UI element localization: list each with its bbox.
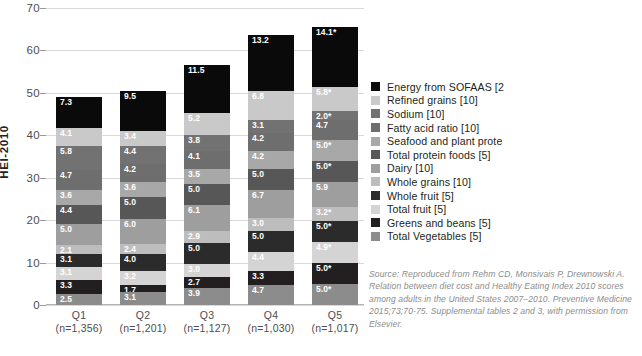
y-tick-mark xyxy=(40,50,46,51)
bar-column[interactable]: 13.26.83.14.24.25.06.73.05.04.43.34.7 xyxy=(248,35,294,305)
legend-swatch xyxy=(371,205,380,214)
plot-area: 010203040506070 7.34.15.84.73.64.45.02.1… xyxy=(46,8,364,305)
legend-item[interactable]: Whole fruit [5] xyxy=(371,189,639,203)
bar-segment: 2.1 xyxy=(56,245,102,254)
bar-segment-value: 9.5 xyxy=(124,92,136,101)
bar-segment-value: 3.9 xyxy=(188,289,200,298)
bar-segment: 4.4 xyxy=(248,252,294,271)
bar-segment: 4.2 xyxy=(248,133,294,151)
bar-segment: 3.3 xyxy=(248,271,294,285)
bar-segment-value: 4.7 xyxy=(252,286,264,295)
bar-segment: 5.0 xyxy=(184,184,230,205)
bar-segment-value: 14.1* xyxy=(316,28,336,37)
bar-segment-value: 4.2 xyxy=(252,152,264,161)
legend: Energy from SOFAAS [2Refined grains [10]… xyxy=(371,80,639,243)
bar-column[interactable]: 11.55.23.84.13.55.06.12.95.03.02.73.9 xyxy=(184,65,230,305)
bar-segment-value: 2.5 xyxy=(60,295,72,304)
bar-segment: 4.1 xyxy=(184,151,230,168)
legend-item[interactable]: Total fruit [5] xyxy=(371,202,639,216)
bar-segment: 3.3 xyxy=(56,280,102,294)
bar-segment: 4.4 xyxy=(56,205,102,224)
bar-column[interactable]: 9.53.44.44.23.65.06.02.44.03.21.73.1 xyxy=(120,91,166,305)
legend-item[interactable]: Fatty acid ratio [10] xyxy=(371,121,639,135)
bar-segment: 3.1 xyxy=(56,267,102,280)
legend-item[interactable]: Total Vegetables [5] xyxy=(371,230,639,244)
bar-segment-value: 3.1 xyxy=(124,293,136,302)
bar-segment-value: 4.0 xyxy=(124,255,136,264)
bar-segment: 4.7 xyxy=(248,285,294,305)
legend-label: Whole grains [10] xyxy=(387,176,471,188)
bar-segment-value: 5.0 xyxy=(60,225,72,234)
bar-segment-value: 5.0* xyxy=(316,222,332,231)
legend-item[interactable]: Refined grains [10] xyxy=(371,94,639,108)
legend-label: Seafood and plant prote xyxy=(387,135,502,147)
bar-segment: 5.8* xyxy=(312,87,358,112)
chart-figure: HEI-2010 010203040506070 7.34.15.84.73.6… xyxy=(0,0,642,356)
bar-segment-value: 5.8 xyxy=(60,147,72,156)
legend-label: Dairy [10] xyxy=(387,162,433,174)
bar-segment-value: 3.0 xyxy=(252,219,264,228)
y-tick-label: 60 xyxy=(26,44,40,56)
bar-segment-value: 6.7 xyxy=(252,191,264,200)
bar-segment-value: 4.1 xyxy=(60,129,72,138)
bar-column[interactable]: 14.1*5.8*2.0*4.75.0*5.0*5.93.2*5.0*4.9*5… xyxy=(312,27,358,305)
bar-segment-value: 3.8 xyxy=(188,136,200,145)
y-tick-label: 70 xyxy=(26,2,40,14)
bar-segment: 5.0* xyxy=(312,221,358,242)
bar-segment: 4.2 xyxy=(248,151,294,169)
legend-label: Sodium [10] xyxy=(387,108,445,120)
bar-segment: 3.8 xyxy=(184,135,230,151)
gridline xyxy=(46,8,364,9)
bar-segment-value: 11.5 xyxy=(188,66,204,75)
bar-segment-value: 3.2* xyxy=(316,208,332,217)
bar-segment-value: 3.4 xyxy=(124,132,136,141)
bar-segment-value: 5.0* xyxy=(316,285,332,294)
bar-segment: 2.9 xyxy=(184,231,230,243)
legend-swatch xyxy=(371,82,380,91)
bar-segment: 4.2 xyxy=(120,164,166,182)
bar-segment-value: 3.6 xyxy=(60,191,72,200)
bar-segment: 3.2 xyxy=(120,271,166,285)
legend-label: Total protein foods [5] xyxy=(387,149,491,161)
bar-segment: 5.0 xyxy=(184,243,230,264)
bar-segment: 2.0* xyxy=(312,111,358,119)
legend-item[interactable]: Sodium [10] xyxy=(371,107,639,121)
bar-segment: 5.2 xyxy=(184,113,230,135)
gridline xyxy=(46,305,364,306)
legend-item[interactable]: Dairy [10] xyxy=(371,162,639,176)
bar-segment-value: 5.8* xyxy=(316,88,332,97)
y-tick-mark xyxy=(40,305,46,306)
legend-item[interactable]: Total protein foods [5] xyxy=(371,148,639,162)
y-tick-mark xyxy=(40,93,46,94)
bar-segment: 4.7 xyxy=(312,120,358,140)
bar-segment-value: 3.3 xyxy=(252,272,264,281)
bar-column[interactable]: 7.34.15.84.73.64.45.02.13.13.13.32.5 xyxy=(56,97,102,305)
legend-item[interactable]: Seafood and plant prote xyxy=(371,134,639,148)
legend-item[interactable]: Whole grains [10] xyxy=(371,175,639,189)
bar-segment-value: 5.0* xyxy=(316,162,332,171)
y-tick-label: 40 xyxy=(26,129,40,141)
y-tick-label: 20 xyxy=(26,214,40,226)
legend-item[interactable]: Energy from SOFAAS [2 xyxy=(371,80,639,94)
legend-swatch xyxy=(371,137,380,146)
bar-segment-value: 6.1 xyxy=(188,206,200,215)
bar-segment-value: 5.0 xyxy=(252,232,264,241)
legend-label: Fatty acid ratio [10] xyxy=(387,122,479,134)
bar-segment-value: 4.1 xyxy=(188,152,200,161)
bar-segment: 4.7 xyxy=(56,170,102,190)
bar-segment: 4.0 xyxy=(120,254,166,271)
legend-swatch xyxy=(371,164,380,173)
bar-segment-value: 3.6 xyxy=(124,183,136,192)
bar-segment: 3.0 xyxy=(248,218,294,231)
legend-label: Energy from SOFAAS [2 xyxy=(387,81,504,93)
bar-segment: 6.1 xyxy=(184,205,230,231)
bar-segment: 6.7 xyxy=(248,190,294,218)
bar-segment: 3.2* xyxy=(312,207,358,221)
legend-item[interactable]: Greens and beans [5] xyxy=(371,216,639,230)
bar-segment-value: 4.4 xyxy=(60,206,72,215)
y-tick-mark xyxy=(40,220,46,221)
bar-segment: 3.1 xyxy=(120,292,166,305)
legend-label: Whole fruit [5] xyxy=(387,190,454,202)
bar-segment: 1.7 xyxy=(120,285,166,292)
legend-swatch xyxy=(371,109,380,118)
